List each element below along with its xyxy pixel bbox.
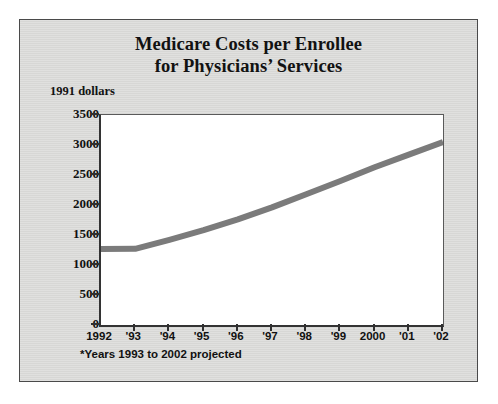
x-axis-tick-mark [133,324,135,331]
y-axis-tick-mark [91,203,99,205]
x-axis-tick-label: '96 [228,330,244,342]
x-axis-tick-label: 1992 [86,330,112,342]
series-line-medicare-cost [101,142,443,249]
data-line-svg [101,115,443,325]
chart-panel: Medicare Costs per Enrollee for Physicia… [19,19,478,382]
chart-footnote: *Years 1993 to 2002 projected [80,348,242,360]
x-axis-tick-mark [373,324,375,331]
plot-area [99,114,444,327]
x-axis-tick-label: '93 [125,330,141,342]
x-axis-tick-label: '97 [262,330,278,342]
x-axis-tick-label: '02 [433,330,449,342]
x-axis-tick-label: '95 [194,330,210,342]
y-axis-tick-mark [91,143,99,145]
x-axis-tick-mark [407,324,409,331]
y-axis-tick-mark [91,173,99,175]
x-axis-tick-label: 2000 [360,330,386,342]
y-axis-tick-mark [91,263,99,265]
x-axis-tick-label: '01 [399,330,415,342]
chart-figure: Medicare Costs per Enrollee for Physicia… [0,0,498,404]
y-axis-tick-mark [91,293,99,295]
y-axis-tick-marks [91,20,101,383]
y-axis-tick-mark [91,323,99,325]
x-axis-tick-label: '94 [160,330,176,342]
x-axis-tick-label: '99 [331,330,347,342]
x-axis-tick-mark [202,324,204,331]
x-axis-tick-mark [167,324,169,331]
chart-title-line-1: Medicare Costs per Enrollee [135,34,362,54]
x-axis-tick-mark [270,324,272,331]
x-axis-tick-mark [441,324,443,331]
y-axis-tick-mark [91,113,99,115]
x-axis-tick-mark [304,324,306,331]
x-axis-tick-mark [338,324,340,331]
x-axis-tick-label: '98 [296,330,312,342]
x-axis-tick-mark [236,324,238,331]
y-axis-tick-mark [91,233,99,235]
